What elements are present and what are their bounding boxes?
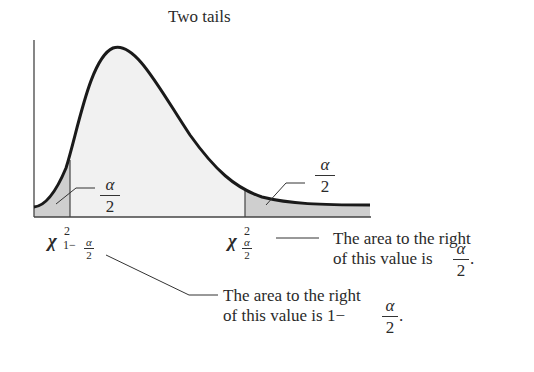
right-subscript-fraction: α 2 [242, 236, 252, 262]
left-subscript-fraction: α 2 [84, 236, 94, 262]
fraction-bar [100, 195, 120, 196]
left-tail-label: α 2 [100, 176, 120, 217]
left-annotation-leader [106, 255, 218, 295]
fraction-bar [315, 175, 335, 176]
diagram-title: Two tails [168, 7, 231, 27]
right-tail-label: α 2 [315, 156, 335, 197]
